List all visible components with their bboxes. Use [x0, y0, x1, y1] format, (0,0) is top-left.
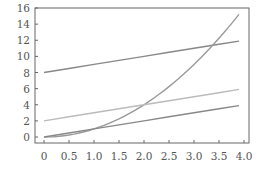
y-tick-label: 4	[23, 99, 30, 111]
series-line-0	[44, 41, 239, 72]
series-line-1	[44, 14, 239, 137]
series-line-2	[44, 89, 239, 121]
x-tick-label: 3.5	[211, 150, 228, 162]
y-tick-label: 8	[23, 67, 30, 79]
y-tick-label: 14	[17, 18, 31, 30]
y-tick-label: 6	[23, 83, 30, 95]
x-tick-label: 3.0	[186, 150, 203, 162]
plot-frame	[35, 8, 249, 143]
x-tick-label: 1.5	[111, 150, 128, 162]
x-tick-label: 2.5	[161, 150, 178, 162]
plot-border	[35, 8, 249, 143]
x-tick-label: 0.5	[61, 150, 78, 162]
y-tick-label: 12	[17, 34, 30, 46]
x-tick-label: 2.0	[136, 150, 153, 162]
y-tick-label: 0	[23, 131, 30, 143]
x-tick-label: 0	[41, 150, 48, 162]
line-chart: 00.51.01.52.02.53.03.54.0 0246810121416	[0, 0, 261, 174]
y-tick-label: 16	[17, 2, 31, 14]
x-tick-label: 4.0	[236, 150, 253, 162]
y-tick-label: 10	[17, 50, 30, 62]
y-tick-label: 2	[23, 115, 30, 127]
series-layer	[44, 14, 239, 137]
x-tick-label: 1.0	[86, 150, 103, 162]
series-line-3	[44, 106, 239, 137]
